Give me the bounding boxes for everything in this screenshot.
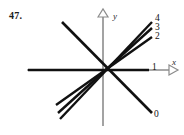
line-label-0: 0 <box>154 110 159 120</box>
line-label-1: 1 <box>152 63 157 73</box>
figure-container: 47. y x 0 1 2 3 4 <box>0 0 184 135</box>
y-axis-arrowhead-icon <box>98 9 108 17</box>
line-label-4: 4 <box>155 14 160 24</box>
x-axis-label: x <box>172 58 176 67</box>
lines-group <box>28 22 152 119</box>
line-label-2: 2 <box>155 32 160 42</box>
y-axis-label: y <box>113 12 117 21</box>
line-label-3: 3 <box>155 23 160 33</box>
